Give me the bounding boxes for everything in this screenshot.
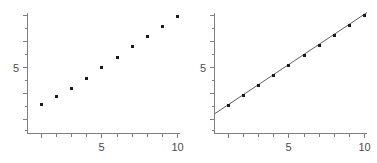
right-x-ticks xyxy=(229,134,365,139)
right-y-tick-label-5: 5 xyxy=(200,62,206,74)
data-point xyxy=(85,77,88,80)
data-point xyxy=(242,94,245,97)
data-point xyxy=(40,103,43,106)
left-data-points xyxy=(40,15,179,106)
data-point xyxy=(257,84,260,87)
plots-svg: 5 5 10 xyxy=(0,0,377,163)
data-point xyxy=(55,95,58,98)
data-point xyxy=(333,34,336,37)
right-panel: 5 5 10 xyxy=(200,13,371,154)
data-point xyxy=(227,104,230,107)
data-point xyxy=(363,14,366,17)
data-point xyxy=(272,74,275,77)
left-panel: 5 5 10 xyxy=(13,13,184,153)
left-y-ticks xyxy=(23,16,28,131)
left-x-tick-label-5: 5 xyxy=(98,141,104,153)
data-point xyxy=(116,56,119,59)
data-point xyxy=(348,24,351,27)
data-point xyxy=(131,45,134,48)
left-x-ticks xyxy=(42,134,178,139)
data-point xyxy=(287,64,290,67)
fit-line xyxy=(215,13,367,114)
left-x-tick-label-10: 10 xyxy=(171,141,183,153)
right-y-ticks xyxy=(210,16,215,131)
data-point xyxy=(146,35,149,38)
data-point xyxy=(176,15,179,18)
data-point xyxy=(303,54,306,57)
right-x-tick-label-10: 10 xyxy=(358,141,370,153)
figure-container: 5 5 10 xyxy=(0,0,377,163)
data-point xyxy=(161,25,164,28)
data-point xyxy=(70,87,73,90)
left-y-tick-label-5: 5 xyxy=(13,62,19,74)
data-point xyxy=(318,44,321,47)
data-point xyxy=(100,66,103,69)
right-x-tick-label-5: 5 xyxy=(285,141,291,153)
